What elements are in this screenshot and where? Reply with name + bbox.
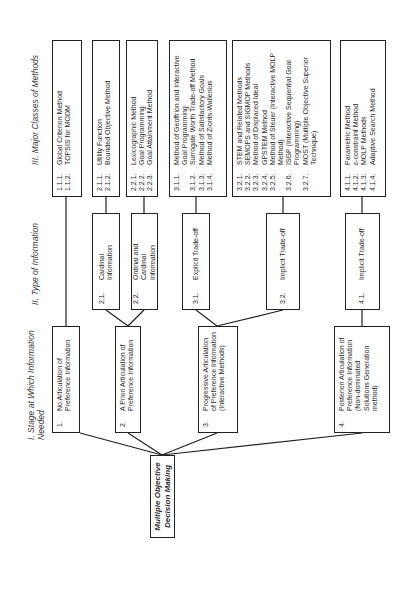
method-label: SEMOPS and SIGMOP Methods: [244, 46, 252, 165]
header-stage: I. Stage at Which Information Needed: [26, 315, 46, 440]
method-label: Utility Function: [96, 46, 104, 165]
method-label: Method of Displaced Ideal: [252, 46, 260, 165]
stage-label: Progressive Articulation of Preference I…: [202, 332, 227, 411]
stage-label: No Articulation of Preference Informatio…: [56, 332, 72, 411]
stage-label: A Priori Articulation of Preference Info…: [119, 332, 135, 411]
type-box-3-1: 3.1.Explicit Trade-off: [182, 213, 210, 310]
type-num: 4.1.: [358, 280, 366, 304]
methods-box-4-1: 4.1.1.Parametric Method 4.1.2.ε-constrai…: [340, 40, 386, 197]
method-label: Parametric Method: [344, 46, 352, 165]
header-methods-roman: III.: [30, 156, 40, 165]
method-num: 4.1.1.: [344, 165, 352, 191]
header-type-roman: II.: [30, 298, 40, 305]
method-num: 3.2.3.: [252, 165, 260, 191]
method-num: 2.1.2.: [104, 165, 112, 191]
type-label: Implicit Trade-off: [279, 228, 287, 280]
method-label: ISGP (Interactive Sequential Goal Progra…: [285, 46, 301, 165]
type-label: Explicit Trade-off: [192, 228, 200, 280]
methods-box-2-1: 2.1.1.Utility Function 2.1.2.Bounded Obj…: [92, 40, 120, 197]
method-num: 3.1.3.: [198, 165, 206, 191]
method-num: 3.1.2.: [189, 165, 197, 191]
type-label: Implicit Trade-off: [358, 228, 366, 280]
type-label: Cardinal Information: [98, 219, 114, 280]
method-label: Bounded Objective Method: [104, 46, 112, 165]
method-label: Method of Steuer (Interactive MOLP Metho…: [269, 46, 285, 165]
root-box: Multiple Objective Decision Making: [150, 455, 175, 538]
stage-num: 3.: [202, 411, 227, 427]
modm-taxonomy-diagram: I. Stage at Which Information Needed II.…: [0, 0, 403, 605]
method-num: 3.1.4.: [206, 165, 214, 191]
type-box-4-1: 4.1.Implicit Trade-off: [345, 213, 380, 310]
method-num: 2.2.3.: [146, 165, 154, 191]
type-num: 2.2.: [132, 280, 157, 304]
method-label: Method of Geoffrion and Interactive Goal…: [173, 46, 189, 165]
method-num: 2.2.2.: [138, 165, 146, 191]
type-label: Ordinal and Cardinal Information: [132, 219, 157, 280]
method-num: 3.2.5.: [269, 165, 285, 191]
header-stage-label: Stage at Which Information Needed: [26, 330, 46, 440]
method-label: Lexicographic Method: [130, 46, 138, 165]
method-label: GPSTEM Method: [261, 46, 269, 165]
method-label: Global Criterion Method: [56, 46, 64, 165]
method-num: 3.2.1.: [236, 165, 244, 191]
stage-box-4: 4.Posteriori Articulation of Preference …: [334, 326, 390, 433]
stage-num: 1.: [56, 411, 72, 427]
methods-box-3-2: 3.2.1.STEM and Related Methods 3.2.2.SEM…: [232, 40, 331, 197]
method-num: 4.1.4.: [369, 165, 377, 191]
stage-num: 4.: [338, 411, 379, 427]
method-num: 1.1.1.: [56, 165, 64, 191]
method-label: Surrogate Worth Trade-off Method: [189, 46, 197, 165]
method-label: Goal Attainment Method: [146, 46, 154, 165]
stage-num: 2.: [119, 411, 135, 427]
method-label: TOPSIS for MODM: [64, 46, 72, 165]
header-type: II. Type of Information: [30, 195, 40, 305]
method-num: 3.2.7.: [302, 165, 318, 191]
methods-box-3-1: 3.1.1.Method of Geoffrion and Interactiv…: [169, 40, 227, 197]
type-num: 2.1.: [98, 280, 114, 304]
type-num: 3.1.: [192, 280, 200, 304]
header-methods-label: Major Classes of Methods: [30, 55, 40, 153]
method-num: 1.1.2.: [64, 165, 72, 191]
methods-box-1-1: 1.1.1.Global Criterion Method 1.1.2.TOPS…: [52, 40, 82, 197]
method-label: MOLP Methods: [360, 46, 368, 165]
method-num: 4.1.3.: [360, 165, 368, 191]
method-label: Goal Programming: [138, 46, 146, 165]
stage-box-2: 2.A Priori Articulation of Preference In…: [115, 326, 141, 433]
method-num: 4.1.2.: [352, 165, 360, 191]
method-num: 3.1.1.: [173, 165, 189, 191]
stage-box-3: 3.Progressive Articulation of Preference…: [198, 326, 238, 433]
method-num: 3.2.6.: [285, 165, 301, 191]
type-box-2-1: 2.1.Cardinal Information: [92, 213, 120, 310]
method-label: ε-constraint Method: [352, 46, 360, 165]
method-label: STEM and Related Methods: [236, 46, 244, 165]
method-num: 3.2.2.: [244, 165, 252, 191]
root-label: Multiple Objective Decision Making: [153, 461, 173, 532]
method-label: Method of Zionts-Wallenius: [206, 46, 214, 165]
stage-box-1: 1.No Articulation of Preference Informat…: [52, 326, 80, 433]
header-stage-roman: I.: [26, 435, 36, 440]
method-num: 2.1.1.: [96, 165, 104, 191]
stage-label: Posteriori Articulation of Preference In…: [338, 332, 379, 411]
type-box-2-2: 2.2.Ordinal and Cardinal Information: [131, 213, 158, 310]
methods-box-2-2: 2.2.1.Lexicographic Method 2.2.2.Goal Pr…: [126, 40, 158, 197]
type-box-3-2: 3.2.Implicit Trade-off: [266, 213, 300, 310]
header-methods: III. Major Classes of Methods: [30, 25, 40, 165]
method-num: 3.2.4.: [261, 165, 269, 191]
method-label: MOST (Multiple Objective Superior Techni…: [302, 46, 318, 165]
method-label: Adaptive Search Method: [369, 46, 377, 165]
method-num: 2.2.1.: [130, 165, 138, 191]
header-type-label: Type of Information: [30, 223, 40, 296]
type-num: 3.2.: [279, 280, 287, 304]
method-label: Method of Satisfactory Goals: [198, 46, 206, 165]
